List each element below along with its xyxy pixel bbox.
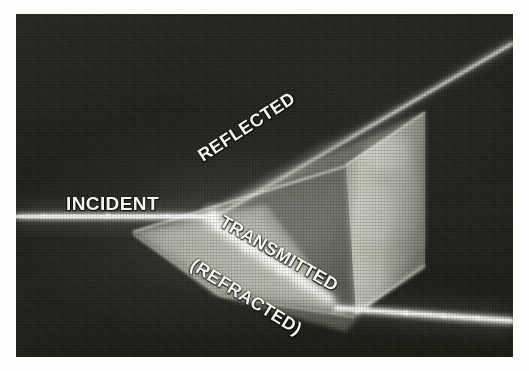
transmitted-beam xyxy=(330,302,513,330)
incident-beam xyxy=(16,208,216,226)
entry-point-core xyxy=(207,211,219,223)
figure-container: INCIDENT REFLECTED TRANSMITTED (REFRACTE… xyxy=(0,0,529,371)
optics-scene xyxy=(16,14,513,357)
photograph: INCIDENT REFLECTED TRANSMITTED (REFRACTE… xyxy=(16,14,513,357)
